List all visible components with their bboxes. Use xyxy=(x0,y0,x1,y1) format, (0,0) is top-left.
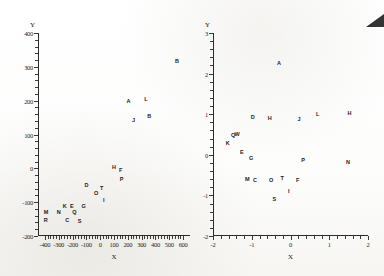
x-tick-plot-left xyxy=(86,236,87,240)
y-tick-plot-left xyxy=(34,236,38,237)
x-tick-label: 400 xyxy=(151,241,160,248)
x-minor-tick xyxy=(48,236,49,239)
y-tick-label: 1 xyxy=(205,111,208,118)
y-minor-tick xyxy=(35,114,38,115)
y-tick-label: -200 xyxy=(22,233,33,240)
y-minor-tick xyxy=(35,80,38,81)
data-point-marker: B xyxy=(175,58,179,64)
x-tick-plot-left xyxy=(142,236,143,240)
y-minor-tick xyxy=(35,216,38,217)
y-minor-tick xyxy=(210,179,213,180)
x-tick-label: 0 xyxy=(289,241,292,248)
y-minor-tick xyxy=(210,204,213,205)
y-tick-label: 100 xyxy=(24,131,33,138)
y-tick-label: 400 xyxy=(24,30,33,37)
y-minor-tick xyxy=(210,187,213,188)
x-minor-tick xyxy=(84,236,85,239)
x-minor-tick xyxy=(153,236,154,239)
x-minor-tick xyxy=(164,236,165,239)
y-minor-tick xyxy=(35,155,38,156)
x-minor-tick xyxy=(178,236,179,239)
x-minor-tick xyxy=(322,236,323,239)
data-point-marker: P xyxy=(301,157,304,163)
x-minor-tick xyxy=(122,236,123,239)
data-point-marker: M xyxy=(44,209,48,215)
x-tick-label: -400 xyxy=(40,241,51,248)
x-minor-tick xyxy=(158,236,159,239)
y-tick-plot-left xyxy=(34,135,38,136)
plot-area-right: Y X -2-10123-2-1012AHDHJLQWKEGPNMCOTFIS xyxy=(213,33,368,236)
x-tick-plot-left xyxy=(183,236,184,240)
data-point-marker: J xyxy=(132,117,135,123)
x-minor-tick xyxy=(180,236,181,239)
y-minor-tick xyxy=(35,141,38,142)
x-tick-plot-right xyxy=(291,236,292,240)
y-minor-tick xyxy=(210,82,213,83)
x-tick-label: -300 xyxy=(53,241,64,248)
x-minor-tick xyxy=(108,236,109,239)
x-minor-tick xyxy=(229,236,230,239)
x-minor-tick xyxy=(64,236,65,239)
x-minor-tick xyxy=(306,236,307,239)
x-minor-tick xyxy=(120,236,121,239)
data-point-marker: F xyxy=(119,167,122,173)
x-minor-tick xyxy=(50,236,51,239)
y-minor-tick xyxy=(210,122,213,123)
data-point-marker: I xyxy=(288,188,289,194)
x-minor-tick xyxy=(89,236,90,239)
data-point-marker: W xyxy=(235,131,240,137)
x-minor-tick xyxy=(103,236,104,239)
data-point-marker: T xyxy=(100,185,103,191)
data-point-marker: A xyxy=(277,60,281,66)
y-minor-tick xyxy=(35,148,38,149)
y-minor-tick xyxy=(35,47,38,48)
figure-canvas: Y X -200-1000100200300400-400-300-200-10… xyxy=(0,0,384,276)
data-point-marker: N xyxy=(57,209,61,215)
x-tick-label: 500 xyxy=(165,241,174,248)
x-minor-tick xyxy=(106,236,107,239)
x-minor-tick xyxy=(61,236,62,239)
data-point-marker: P xyxy=(120,176,123,182)
x-tick-label: -200 xyxy=(67,241,78,248)
x-minor-tick xyxy=(97,236,98,239)
y-minor-tick xyxy=(210,220,213,221)
data-point-marker: I xyxy=(103,197,104,203)
data-point-marker: E xyxy=(70,203,73,209)
y-tick-label: -2 xyxy=(203,233,208,240)
x-tick-plot-right xyxy=(252,236,253,240)
y-minor-tick xyxy=(210,49,213,50)
y-tick-plot-left xyxy=(34,101,38,102)
x-tick-label: 2 xyxy=(367,241,370,248)
data-point-marker: F xyxy=(296,177,299,183)
x-minor-tick xyxy=(267,236,268,239)
y-tick-label: 200 xyxy=(24,97,33,104)
x-tick-plot-right xyxy=(329,236,330,240)
x-tick-plot-left xyxy=(155,236,156,240)
x-minor-tick xyxy=(70,236,71,239)
x-minor-tick xyxy=(53,236,54,239)
x-axis-title-right: X xyxy=(288,253,293,261)
data-point-marker: K xyxy=(226,140,230,146)
scatter-panel-right: Y X -2-10123-2-1012AHDHJLQWKEGPNMCOTFIS xyxy=(190,0,384,276)
data-point-marker: Q xyxy=(72,209,76,215)
x-minor-tick xyxy=(275,236,276,239)
y-minor-tick xyxy=(35,74,38,75)
x-minor-tick xyxy=(144,236,145,239)
y-minor-tick xyxy=(35,94,38,95)
y-axis-title-right: Y xyxy=(205,21,210,29)
x-minor-tick xyxy=(136,236,137,239)
y-minor-tick xyxy=(210,130,213,131)
x-minor-tick xyxy=(283,236,284,239)
y-tick-label: 0 xyxy=(30,165,33,172)
y-minor-tick xyxy=(35,222,38,223)
y-minor-tick xyxy=(35,182,38,183)
y-tick-plot-left xyxy=(34,33,38,34)
x-tick-label: 300 xyxy=(137,241,146,248)
x-minor-tick xyxy=(353,236,354,239)
y-minor-tick xyxy=(210,171,213,172)
x-minor-tick xyxy=(298,236,299,239)
data-point-marker: R xyxy=(44,217,48,223)
y-minor-tick xyxy=(35,189,38,190)
data-point-marker: L xyxy=(144,96,147,102)
x-minor-tick xyxy=(345,236,346,239)
